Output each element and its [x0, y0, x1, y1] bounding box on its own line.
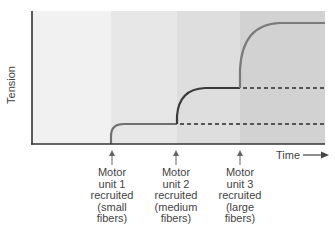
annotation-line: Motor	[82, 167, 142, 179]
arrow-right-icon	[303, 151, 329, 159]
annotation-line: recruited	[146, 190, 206, 202]
x-axis-label: Time	[276, 149, 329, 161]
arrow-up-icon	[109, 150, 115, 165]
arrow-up-icon	[237, 150, 243, 165]
arrow-up-icon	[173, 150, 179, 165]
y-axis-label: Tension	[0, 65, 22, 105]
annotation-unit2: Motor unit 2 recruited (medium fibers)	[146, 167, 206, 225]
annotation-line: Motor	[210, 167, 270, 179]
annotation-line: recruited	[82, 190, 142, 202]
annotation-line: Motor	[146, 167, 206, 179]
annotation-line: fibers)	[146, 213, 206, 225]
annotation-unit1: Motor unit 1 recruited (small fibers)	[82, 167, 142, 225]
annotation-line: fibers)	[210, 213, 270, 225]
x-axis-label-text: Time	[276, 149, 300, 161]
annotation-line: fibers)	[82, 213, 142, 225]
y-axis-label-text: Tension	[5, 66, 17, 104]
annotation-unit3: Motor unit 3 recruited (large fibers)	[210, 167, 270, 225]
region-baseline	[32, 11, 111, 144]
annotation-line: recruited	[210, 190, 270, 202]
